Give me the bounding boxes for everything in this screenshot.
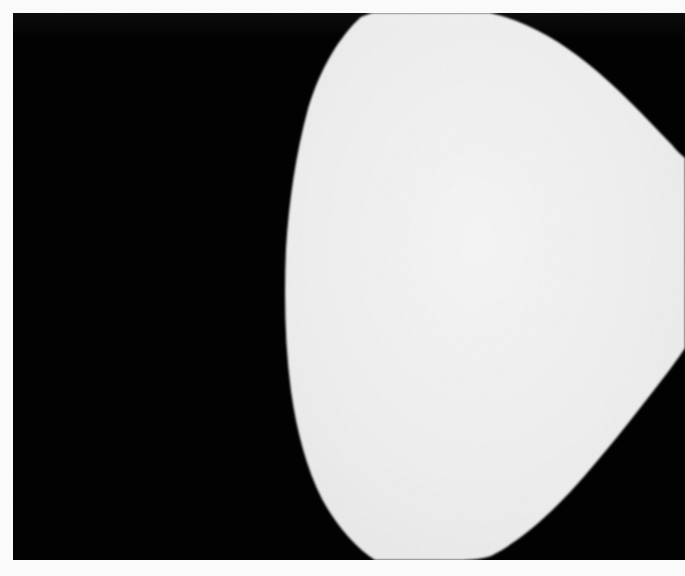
plate-figure-layer: [13, 13, 685, 560]
photographic-plate: [13, 13, 685, 560]
pale-form-vector: [13, 13, 685, 560]
caption-strip: [0, 560, 685, 576]
scan-page: [0, 0, 685, 576]
